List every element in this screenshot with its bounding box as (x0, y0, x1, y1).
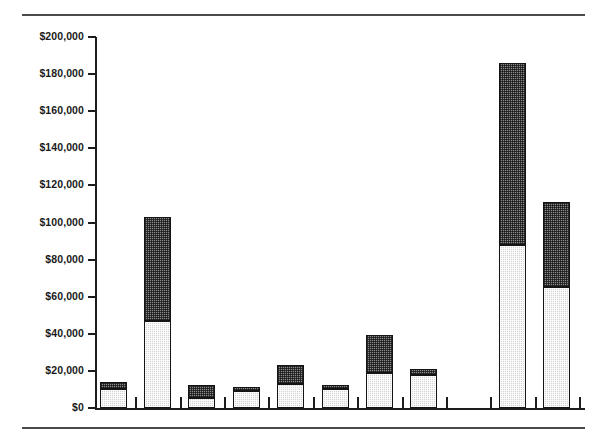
x-axis-tick (135, 397, 137, 409)
y-axis-tick-label: $180,000 (39, 68, 84, 79)
bar-column[interactable] (366, 335, 393, 408)
chart-figure: $200,000$180,000$160,000$140,000$120,000… (0, 0, 607, 442)
y-axis-tick-label: $40,000 (45, 328, 84, 339)
bar-segment-lower (188, 398, 215, 408)
x-axis-tick (268, 397, 270, 409)
x-axis-line (95, 408, 585, 410)
x-axis-tick (180, 397, 182, 409)
y-axis-tick (88, 407, 96, 409)
top-divider-rule (22, 14, 585, 16)
bar-segment-upper (144, 217, 171, 321)
y-axis-tick (88, 110, 96, 112)
bar-segment-upper (100, 382, 127, 389)
bar-segment-lower (366, 373, 393, 408)
bar-column[interactable] (322, 385, 349, 408)
bar-segment-lower (233, 391, 260, 408)
y-axis-tick (88, 184, 96, 186)
y-axis-tick-label: $20,000 (45, 365, 84, 376)
x-axis-tick (357, 397, 359, 409)
bar-column[interactable] (543, 202, 570, 408)
y-axis-tick (88, 36, 96, 38)
bottom-divider-rule (22, 427, 585, 429)
y-axis-tick (88, 259, 96, 261)
bar-segment-lower (410, 375, 437, 408)
bar-segment-lower (100, 389, 127, 408)
x-axis-tick (446, 397, 448, 409)
x-axis-tick (579, 397, 581, 409)
y-axis-tick-label: $0 (72, 402, 84, 413)
y-axis-tick-label: $100,000 (39, 217, 84, 228)
x-axis-tick (313, 397, 315, 409)
bar-segment-upper (188, 385, 215, 398)
y-axis-tick (88, 296, 96, 298)
bar-column[interactable] (277, 365, 304, 408)
y-axis-tick (88, 333, 96, 335)
y-axis-tick-label: $140,000 (39, 142, 84, 153)
y-axis-tick-label: $120,000 (39, 179, 84, 190)
bar-column[interactable] (499, 63, 526, 408)
bar-segment-lower (499, 245, 526, 408)
bar-segment-lower (322, 389, 349, 408)
y-axis-tick-label: $200,000 (39, 31, 84, 42)
y-axis-tick (88, 147, 96, 149)
bar-segment-upper (277, 365, 304, 384)
x-axis-tick (224, 397, 226, 409)
bar-segment-upper (366, 335, 393, 373)
x-axis-tick (402, 397, 404, 409)
bar-segment-upper (499, 63, 526, 245)
y-axis-tick (88, 73, 96, 75)
bar-column[interactable] (410, 369, 437, 408)
y-axis-tick (88, 370, 96, 372)
bar-segment-lower (543, 287, 570, 408)
bar-column[interactable] (233, 387, 260, 408)
bar-column[interactable] (144, 217, 171, 408)
y-axis-tick-label: $160,000 (39, 105, 84, 116)
bar-segment-upper (543, 202, 570, 287)
bar-column[interactable] (188, 385, 215, 408)
bar-column[interactable] (100, 382, 127, 408)
y-axis-tick (88, 222, 96, 224)
bar-segment-lower (277, 384, 304, 408)
y-axis-tick-label: $80,000 (45, 254, 84, 265)
y-axis-tick-label: $60,000 (45, 291, 84, 302)
y-axis-line (95, 37, 97, 410)
bar-segment-lower (144, 321, 171, 408)
x-axis-tick (535, 397, 537, 409)
x-axis-tick (490, 397, 492, 409)
